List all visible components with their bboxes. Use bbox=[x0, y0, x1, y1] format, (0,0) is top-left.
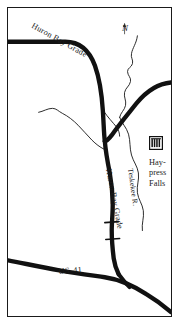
map-figure: Huron Bay Grade N Huron Bay Grade Teskek… bbox=[0, 0, 179, 325]
highway-us-41 bbox=[8, 260, 171, 312]
map-drawing-canvas bbox=[8, 8, 171, 316]
waterfall-icon bbox=[149, 136, 163, 150]
north-arrow-icon bbox=[123, 23, 127, 34]
river-teskekee bbox=[120, 36, 144, 231]
map-border-frame: Huron Bay Grade N Huron Bay Grade Teskek… bbox=[7, 7, 172, 317]
road-huron-bay-grade bbox=[8, 42, 171, 274]
trail-unnamed bbox=[39, 108, 104, 149]
